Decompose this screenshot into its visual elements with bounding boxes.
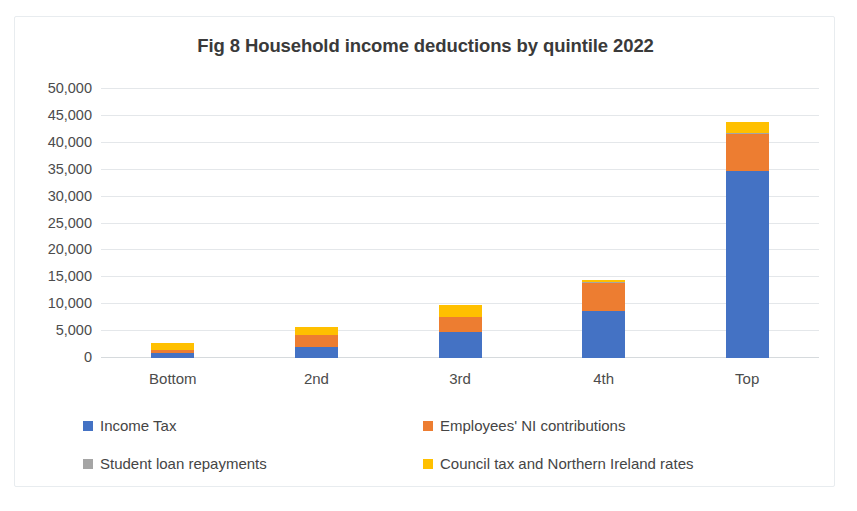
y-axis-tick-label: 15,000 (48, 269, 92, 284)
square-swatch-gray-icon (83, 459, 93, 469)
bar-segment[interactable] (151, 350, 194, 353)
x-axis-tick-label: 4th (532, 370, 676, 387)
plot-area: 50,00045,00040,00035,00030,00025,00020,0… (101, 89, 819, 358)
gridline: 35,000 (101, 169, 819, 170)
bar-segment[interactable] (439, 305, 482, 316)
y-axis-tick-label: 45,000 (48, 108, 92, 123)
bar-segment[interactable] (726, 134, 769, 171)
gridline: 15,000 (101, 276, 819, 277)
gridline: 50,000 (101, 88, 819, 89)
y-axis-tick-label: 25,000 (48, 215, 92, 230)
bar-segment[interactable] (726, 171, 769, 358)
y-axis-tick-label: 0 (84, 350, 92, 365)
bar-segment[interactable] (726, 133, 769, 134)
y-axis-tick-label: 40,000 (48, 135, 92, 150)
legend-item[interactable]: Student loan repayments (83, 455, 423, 472)
chart-figure-frame: Fig 8 Household income deductions by qui… (14, 16, 835, 487)
gridline: 45,000 (101, 115, 819, 116)
square-swatch-yellow-icon (423, 459, 433, 469)
bar-segment[interactable] (582, 280, 625, 282)
bar-segment[interactable] (439, 332, 482, 358)
y-axis-tick-label: 35,000 (48, 161, 92, 176)
bar-segment[interactable] (439, 317, 482, 332)
legend-item[interactable]: Employees' NI contributions (423, 417, 783, 434)
legend-item-label: Student loan repayments (100, 455, 267, 472)
bar-segment[interactable] (295, 335, 338, 347)
gridline: 25,000 (101, 223, 819, 224)
legend-item[interactable]: Council tax and Northern Ireland rates (423, 455, 783, 472)
y-axis-tick-label: 50,000 (48, 81, 92, 96)
x-axis-tick-label: 2nd (245, 370, 389, 387)
bar-segment[interactable] (151, 343, 194, 351)
bar-segment[interactable] (726, 122, 769, 133)
gridline: 20,000 (101, 249, 819, 250)
chart-title: Fig 8 Household income deductions by qui… (15, 35, 836, 57)
y-axis-tick-label: 20,000 (48, 242, 92, 257)
y-axis-tick-label: 30,000 (48, 188, 92, 203)
gridline: 40,000 (101, 142, 819, 143)
legend-item-label: Employees' NI contributions (440, 417, 625, 434)
bar-segment[interactable] (151, 353, 194, 358)
y-axis-tick-label: 5,000 (56, 323, 92, 338)
legend-item[interactable]: Income Tax (83, 417, 423, 434)
bar-segment[interactable] (582, 283, 625, 311)
legend-item-label: Council tax and Northern Ireland rates (440, 455, 693, 472)
chart-legend: Income TaxEmployees' NI contributionsStu… (83, 417, 783, 472)
x-axis-tick-label: 3rd (388, 370, 532, 387)
bar-segment[interactable] (295, 347, 338, 358)
square-swatch-orange-icon (423, 421, 433, 431)
bar-segment[interactable] (295, 327, 338, 335)
bar-segment[interactable] (582, 311, 625, 358)
y-axis-tick-label: 10,000 (48, 296, 92, 311)
x-axis-tick-label: Top (675, 370, 819, 387)
x-axis-tick-label: Bottom (101, 370, 245, 387)
legend-item-label: Income Tax (100, 417, 176, 434)
square-swatch-blue-icon (83, 421, 93, 431)
gridline: 30,000 (101, 196, 819, 197)
gridline: 10,000 (101, 303, 819, 304)
